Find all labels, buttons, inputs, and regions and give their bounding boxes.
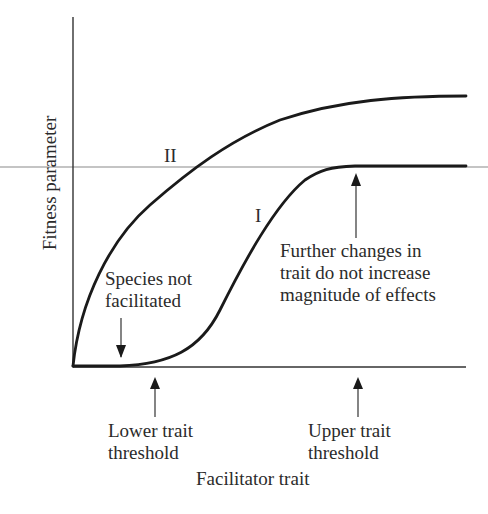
annotation-not-facilitated: Species not facilitated bbox=[105, 268, 192, 312]
curve-II bbox=[73, 96, 466, 366]
annotation-lower-threshold: Lower trait threshold bbox=[108, 420, 193, 464]
arrowhead-up-icon bbox=[150, 377, 160, 389]
arrowhead-down-icon bbox=[116, 345, 126, 358]
y-axis-label: Fitness parameter bbox=[39, 116, 61, 251]
x-axis-label: Facilitator trait bbox=[196, 468, 309, 490]
annotation-upper-threshold: Upper trait threshold bbox=[308, 420, 391, 464]
curve-I-label: I bbox=[255, 205, 261, 227]
curve-II-label: II bbox=[164, 145, 177, 167]
arrowhead-up-icon bbox=[353, 377, 363, 389]
annotation-further-changes: Further changes in trait do not increase… bbox=[280, 240, 436, 306]
arrowhead-up-icon bbox=[351, 173, 361, 186]
